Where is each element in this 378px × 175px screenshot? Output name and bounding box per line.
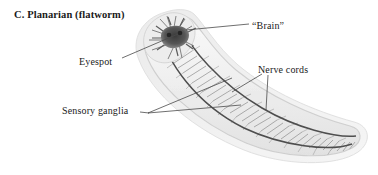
planarian-diagram <box>0 0 378 175</box>
eyespot-left-icon <box>167 33 172 38</box>
label-eyespot: Eyespot <box>79 56 112 67</box>
label-brain: “Brain” <box>252 20 284 31</box>
leader-ganglia-stem <box>140 112 149 113</box>
label-nerve-cords: Nerve cords <box>258 64 308 75</box>
figure-panel: C. Planarian (flatworm) <box>0 0 378 175</box>
label-sensory-ganglia: Sensory ganglia <box>62 105 128 116</box>
eyespot-right-icon <box>178 31 183 36</box>
